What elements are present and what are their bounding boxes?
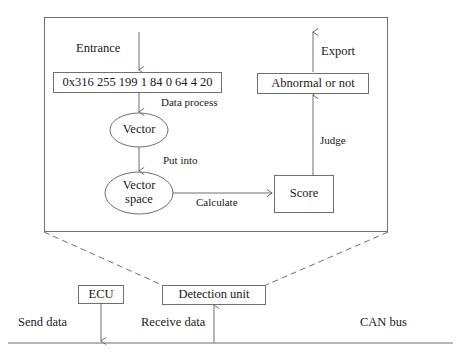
calculate-label: Calculate xyxy=(196,197,238,209)
receive-data-label: Receive data xyxy=(141,316,205,329)
score-box[interactable]: Score xyxy=(274,175,334,213)
data-process-label: Data process xyxy=(161,97,218,109)
ecu-box[interactable]: ECU xyxy=(78,285,124,304)
zoom-connector-left xyxy=(44,232,162,285)
send-data-label: Send data xyxy=(18,316,67,329)
put-into-label: Put into xyxy=(163,155,198,167)
entrance-label: Entrance xyxy=(76,42,120,55)
abnormal-or-not-box[interactable]: Abnormal or not xyxy=(257,73,369,94)
judge-label: Judge xyxy=(320,135,346,147)
diagram-canvas: 0x316 255 199 1 84 0 64 4 20 Abnormal or… xyxy=(0,0,461,362)
data-frame-box[interactable]: 0x316 255 199 1 84 0 64 4 20 xyxy=(53,72,222,93)
export-label: Export xyxy=(321,45,355,58)
can-bus-label: CAN bus xyxy=(360,316,407,329)
zoom-connector-right xyxy=(266,232,388,285)
detection-unit-box[interactable]: Detection unit xyxy=(162,285,266,305)
